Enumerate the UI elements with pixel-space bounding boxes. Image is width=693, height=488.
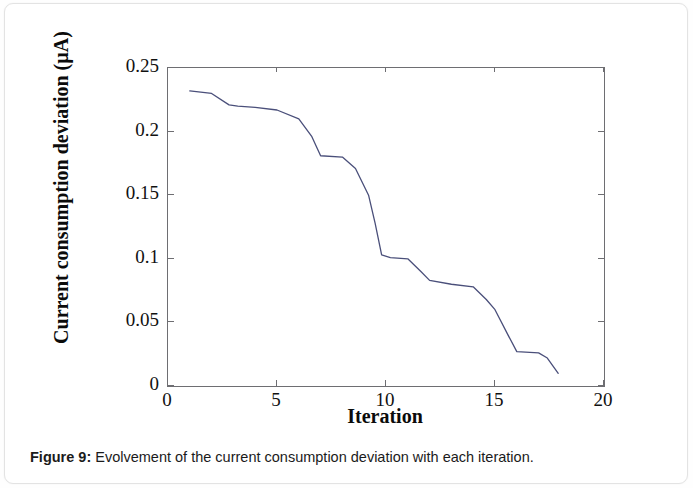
y-axis-tick-mark-right bbox=[598, 67, 604, 68]
y-axis-tick-mark bbox=[168, 258, 174, 259]
figure-container: Current consumption deviation (µA) 00.05… bbox=[0, 0, 693, 488]
y-axis-tick-mark bbox=[168, 194, 174, 195]
y-axis-tick-label: 0.2 bbox=[135, 119, 159, 141]
x-axis-tick-mark bbox=[494, 380, 495, 386]
y-axis-tick-mark bbox=[168, 321, 174, 322]
figure-caption-text: Evolvement of the current consumption de… bbox=[95, 449, 533, 465]
x-axis-title: Iteration bbox=[167, 405, 603, 428]
figure-caption: Figure 9: Evolvement of the current cons… bbox=[30, 448, 670, 466]
x-axis-tick-mark bbox=[385, 380, 386, 386]
y-axis-tick-mark-right bbox=[598, 385, 604, 386]
y-axis-tick-label: 0.25 bbox=[126, 55, 159, 77]
y-axis-tick-mark-right bbox=[598, 321, 604, 322]
x-axis-tick-mark-top bbox=[276, 67, 277, 72]
x-axis-tick-mark-top bbox=[385, 67, 386, 72]
y-axis-tick-mark bbox=[168, 67, 174, 68]
plot-area bbox=[167, 67, 605, 387]
y-axis-title: Current consumption deviation (µA) bbox=[50, 23, 73, 353]
chart: Current consumption deviation (µA) 00.05… bbox=[0, 0, 693, 440]
x-axis-tick-mark-top bbox=[167, 67, 168, 72]
x-axis-tick-mark-top bbox=[494, 67, 495, 72]
y-axis-tick-label: 0.15 bbox=[126, 182, 159, 204]
y-axis-tick-mark-right bbox=[598, 131, 604, 132]
y-axis-tick-mark bbox=[168, 385, 174, 386]
data-line-chart bbox=[168, 68, 604, 386]
y-axis-tick-mark-right bbox=[598, 194, 604, 195]
data-series-line bbox=[190, 91, 558, 373]
x-axis-tick-mark bbox=[276, 380, 277, 386]
y-axis-tick-labels: 00.050.10.150.20.25 bbox=[95, 67, 159, 385]
x-axis-tick-mark bbox=[167, 380, 168, 386]
y-axis-tick-mark bbox=[168, 131, 174, 132]
figure-caption-label: Figure 9: bbox=[30, 449, 91, 465]
y-axis-tick-label: 0.1 bbox=[135, 246, 159, 268]
y-axis-tick-mark-right bbox=[598, 258, 604, 259]
y-axis-tick-label: 0.05 bbox=[126, 309, 159, 331]
